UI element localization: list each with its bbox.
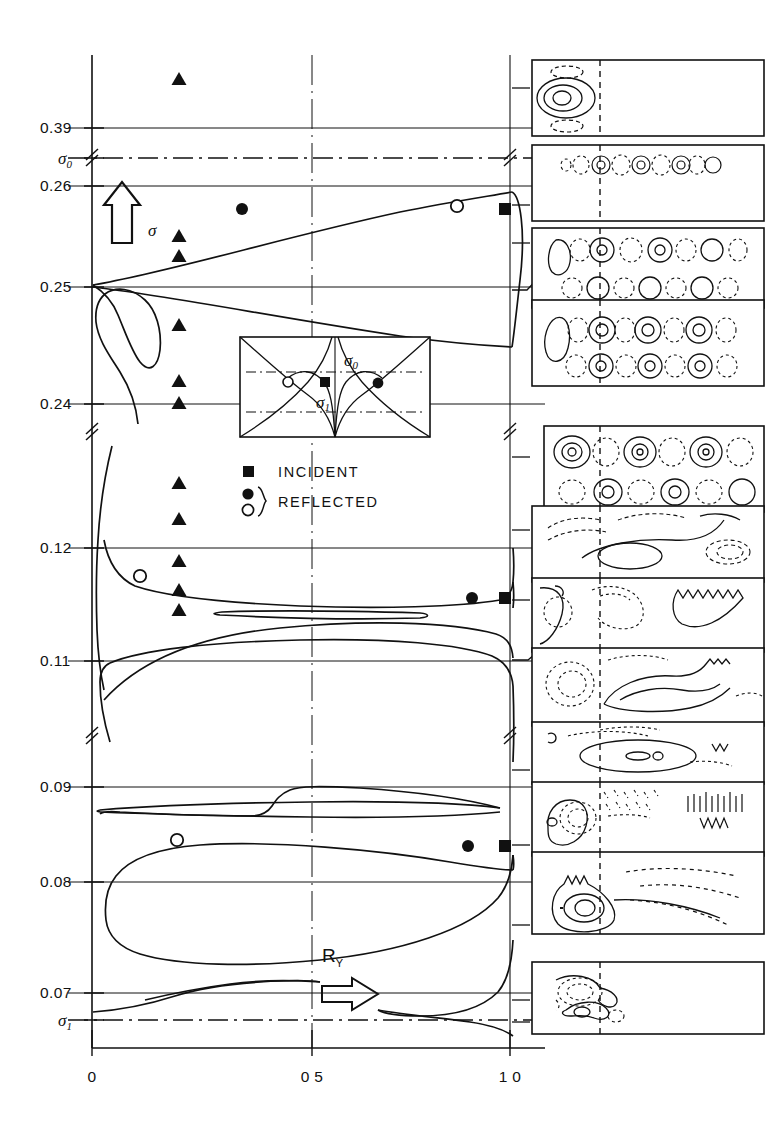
- y-tick-label-0.26: 0.26: [40, 177, 72, 194]
- contour-panel: [544, 426, 764, 512]
- curve-plateau-upper: [104, 540, 513, 607]
- contour-panel: [532, 300, 764, 386]
- triangle-markers: [172, 72, 187, 616]
- y-tick-label-0.09: 0.09: [40, 778, 72, 795]
- incident-marker: [499, 840, 511, 852]
- reflected-filled-marker: [466, 592, 478, 604]
- y-tick-label-0.12: 0.12: [40, 539, 72, 556]
- contour-panel: [532, 962, 764, 1034]
- reflected-open-marker: [171, 834, 183, 846]
- triangle-marker: [172, 603, 187, 616]
- y-tick-label-0.07: 0.07: [40, 984, 72, 1001]
- triangle-marker: [172, 72, 187, 85]
- y-tick-labels: 0.39 0.26 0.25 0.24 0.12 0.11 0.09 0.08 …: [40, 119, 72, 1001]
- y-tick-label-0.24: 0.24: [40, 395, 72, 412]
- reflected-filled-marker: [236, 203, 248, 215]
- contour-panel: [532, 145, 764, 221]
- inset-filled-square-marker: [320, 377, 330, 387]
- triangle-marker: [172, 396, 187, 409]
- legend-reflected-label: REFLECTED: [278, 494, 379, 510]
- curve-lens-009-top: [100, 802, 500, 810]
- x-tick-label-1.0: 1 0: [499, 1068, 522, 1085]
- incident-marker: [499, 203, 511, 215]
- y-tick-label-0.25: 0.25: [40, 278, 72, 295]
- triangle-marker: [172, 229, 187, 242]
- ry-arrow-icon: [322, 978, 378, 1010]
- data-markers: [134, 200, 511, 852]
- reflected-filled-marker: [462, 840, 474, 852]
- figure-root: 0.39 0.26 0.25 0.24 0.12 0.11 0.09 0.08 …: [0, 0, 771, 1129]
- curve-loop-011-right: [513, 686, 514, 762]
- legend-incident-label: INCIDENT: [278, 464, 359, 480]
- curve-group: [93, 192, 522, 1036]
- triangle-marker: [172, 249, 187, 262]
- curve-right-connector-a: [513, 582, 514, 608]
- reflected-open-marker: [451, 200, 463, 212]
- y-tick-marks: [84, 128, 104, 1020]
- y-tick-label-0.08: 0.08: [40, 873, 72, 890]
- x-tick-label-0: 0: [87, 1068, 96, 1085]
- sigma-axis-arrow: σ: [104, 182, 157, 243]
- plot-axes: [86, 55, 545, 1056]
- curve-lens-009-cap: [97, 810, 100, 812]
- legend-reflected-filled-circle-icon: [242, 488, 253, 499]
- figure-canvas: 0.39 0.26 0.25 0.24 0.12 0.11 0.09 0.08 …: [0, 0, 771, 1129]
- legend-brace-icon: [258, 487, 266, 516]
- contour-panel: [532, 722, 764, 784]
- sigma0-label: σ0: [58, 149, 72, 170]
- triangle-marker: [172, 318, 187, 331]
- triangle-marker: [172, 583, 187, 596]
- contour-panel: [532, 648, 764, 726]
- legend-reflected-open-circle-icon: [242, 504, 253, 515]
- triangle-marker: [172, 512, 187, 525]
- curve-wiggle: [93, 285, 160, 424]
- triangle-marker: [172, 374, 187, 387]
- x-ticks: [92, 1030, 510, 1056]
- contour-panel: [532, 782, 764, 856]
- contour-panel: [532, 578, 764, 652]
- incident-marker: [499, 592, 511, 604]
- curve-bottom-loop-stem: [513, 855, 514, 870]
- ry-axis-group: RY: [322, 945, 378, 1010]
- reflected-open-marker: [134, 570, 146, 582]
- curve-spike-right: [378, 940, 513, 1016]
- curve-bottom-loop: [105, 844, 513, 965]
- y-gridlines: [68, 128, 545, 993]
- contour-panel: [532, 228, 764, 308]
- x-tick-label-0.5: 0 5: [301, 1068, 324, 1085]
- legend: INCIDENT REFLECTED: [242, 464, 378, 516]
- curve-plateau-upper-stem: [513, 548, 514, 582]
- inset-filled-circle-marker: [373, 378, 384, 389]
- curve-spike-left: [93, 981, 320, 1013]
- legend-incident-square-icon: [243, 466, 254, 477]
- inset-bifurcation-schematic: σ0 σ1: [240, 337, 430, 437]
- inset-open-circle-marker: [283, 377, 293, 387]
- sigma-axis-label: σ: [148, 221, 157, 240]
- triangle-marker: [172, 476, 187, 489]
- curve-upper-right-join: [512, 192, 522, 347]
- x-tick-labels: 0 0 5 1 0: [87, 1068, 521, 1085]
- curve-plateau-lens: [214, 611, 427, 619]
- sigma1-label: σ1: [58, 1011, 72, 1032]
- curve-left-0.12-0.11: [96, 446, 112, 690]
- curve-loop-011-top: [100, 640, 513, 742]
- triangle-marker: [172, 554, 187, 567]
- contour-panel: [532, 852, 764, 934]
- contour-panel: [532, 506, 764, 582]
- y-tick-label-0.11: 0.11: [40, 652, 71, 669]
- y-tick-label-0.39: 0.39: [40, 119, 72, 136]
- contour-panel: [532, 60, 764, 136]
- side-panel-strip: [532, 60, 764, 1034]
